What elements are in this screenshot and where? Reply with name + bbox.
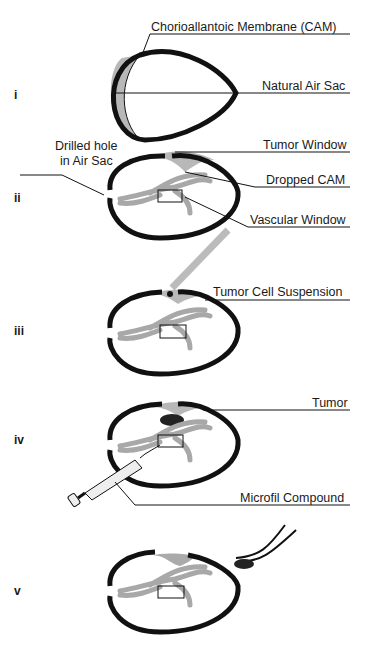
cell-drop — [167, 291, 173, 297]
step-numeral-ii: ii — [14, 191, 21, 205]
label-microfil-compound: Microfil Compound — [240, 491, 344, 505]
forceps — [234, 525, 296, 569]
label-drilled-hole-2: in Air Sac — [60, 154, 113, 168]
step-iii: iii Tumor Cell Suspension — [14, 230, 350, 374]
step-ii: ii Drilled hole in Air Sac Tumor Window … — [14, 138, 350, 238]
label-cam: Chorioallantoic Membrane (CAM) — [151, 20, 336, 34]
label-dropped-cam: Dropped CAM — [266, 173, 345, 187]
step-numeral-iii: iii — [14, 324, 24, 338]
label-tumor-window: Tumor Window — [263, 138, 348, 152]
label-natural-air-sac: Natural Air Sac — [262, 79, 345, 93]
syringe — [67, 445, 160, 507]
label-tumor-cell-suspension: Tumor Cell Suspension — [213, 285, 343, 299]
label-tumor: Tumor — [312, 396, 348, 410]
step-numeral-iv: iv — [14, 433, 24, 447]
step-numeral-i: i — [14, 88, 17, 102]
step-numeral-v: v — [14, 584, 21, 598]
diagram-canvas: i Chorioallantoic Membrane (CAM) Natural… — [0, 0, 372, 650]
step-i: i Chorioallantoic Membrane (CAM) Natural… — [14, 20, 350, 140]
step-v: v — [14, 525, 296, 632]
step-iv: iv Tumor Microfil Compound — [14, 396, 350, 507]
label-vascular-window: Vascular Window — [250, 213, 347, 227]
cam-assay-diagram: i Chorioallantoic Membrane (CAM) Natural… — [0, 0, 372, 650]
label-drilled-hole-1: Drilled hole — [55, 139, 118, 153]
